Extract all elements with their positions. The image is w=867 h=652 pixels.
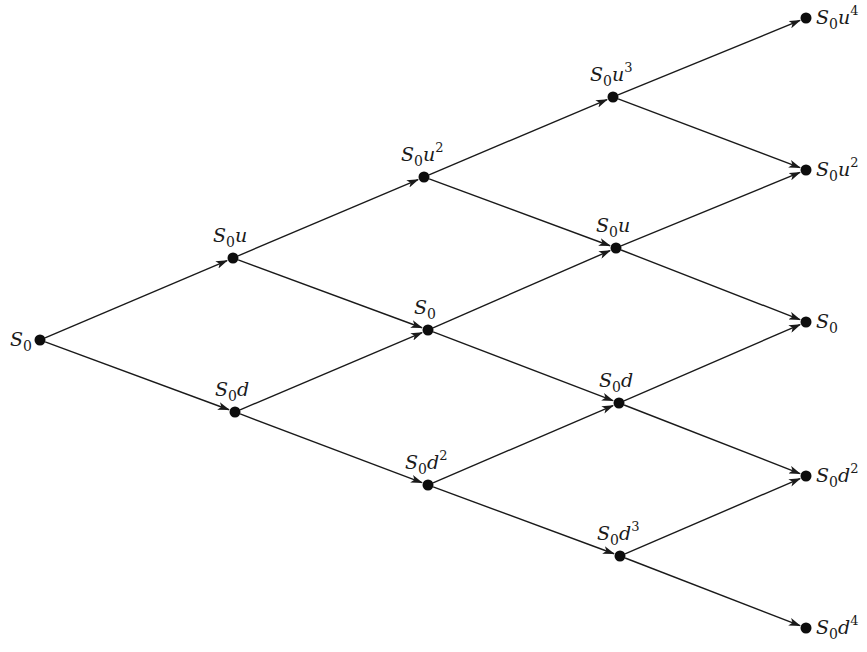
tree-labels: S0S0uS0dS0u2S0S0d2S0u3S0uS0dS0d3S0u4S0u2… bbox=[10, 3, 858, 642]
node-n22 bbox=[419, 172, 430, 183]
binomial-tree-diagram: S0S0uS0dS0u2S0S0d2S0u3S0uS0dS0d3S0u4S0u2… bbox=[0, 0, 867, 652]
node-label-n33: S0u3 bbox=[590, 60, 632, 89]
node-n41 bbox=[801, 471, 812, 482]
node-label-n40: S0d4 bbox=[816, 613, 858, 642]
node-n31 bbox=[614, 398, 625, 409]
node-n10 bbox=[230, 407, 241, 418]
node-label-n11: S0u bbox=[213, 224, 247, 250]
edge-n10-n20 bbox=[240, 414, 422, 483]
edge-n32-n43 bbox=[621, 172, 800, 245]
node-label-n20: S0d2 bbox=[405, 448, 447, 477]
edge-n32-n42 bbox=[621, 250, 800, 320]
node-label-n22: S0u2 bbox=[401, 140, 443, 169]
node-n20 bbox=[423, 480, 434, 491]
edge-n22-n33 bbox=[429, 100, 607, 175]
node-label-n43: S0u2 bbox=[816, 155, 858, 184]
node-label-n44: S0u4 bbox=[816, 3, 858, 32]
node-n30 bbox=[615, 551, 626, 562]
edge-n00-n10 bbox=[45, 342, 229, 410]
edge-n33-n43 bbox=[618, 99, 800, 168]
node-label-n30: S0d3 bbox=[597, 519, 639, 548]
node-label-n21: S0 bbox=[414, 296, 436, 322]
node-n42 bbox=[801, 317, 812, 328]
node-n44 bbox=[801, 13, 812, 24]
edge-n30-n40 bbox=[625, 558, 800, 626]
node-n32 bbox=[611, 243, 622, 254]
edge-n20-n30 bbox=[433, 487, 614, 554]
node-n21 bbox=[423, 325, 434, 336]
node-label-n42: S0 bbox=[816, 310, 838, 336]
edge-n11-n21 bbox=[238, 260, 422, 328]
node-n00 bbox=[35, 335, 46, 346]
node-n43 bbox=[801, 165, 812, 176]
node-label-n32: S0u bbox=[596, 214, 630, 240]
node-label-n00: S0 bbox=[10, 328, 32, 354]
edge-n10-n21 bbox=[240, 333, 422, 410]
node-n11 bbox=[228, 253, 239, 264]
node-n40 bbox=[801, 623, 812, 634]
edge-n31-n41 bbox=[624, 405, 800, 474]
edge-n22-n32 bbox=[429, 179, 610, 246]
edge-n20-n31 bbox=[433, 406, 613, 483]
edge-n21-n31 bbox=[433, 332, 613, 401]
edge-n21-n32 bbox=[433, 251, 610, 328]
node-n33 bbox=[608, 92, 619, 103]
edge-n33-n44 bbox=[618, 20, 800, 94]
edge-n31-n42 bbox=[624, 325, 800, 401]
node-label-n10: S0d bbox=[215, 378, 249, 404]
tree-edges bbox=[45, 20, 800, 625]
node-label-n41: S0d2 bbox=[816, 461, 858, 490]
edge-n00-n11 bbox=[45, 261, 227, 338]
edge-n11-n22 bbox=[238, 180, 418, 256]
node-label-n31: S0d bbox=[599, 369, 633, 395]
edge-n30-n41 bbox=[625, 479, 800, 554]
tree-nodes bbox=[35, 13, 812, 634]
